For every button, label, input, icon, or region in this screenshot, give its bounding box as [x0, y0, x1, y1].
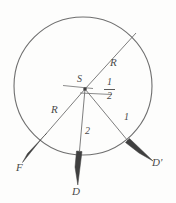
vector-f-arrow	[23, 134, 47, 163]
label-vector-d: D	[72, 186, 80, 197]
label-radius-upper-right: R	[110, 57, 117, 68]
tick-left-line	[63, 86, 93, 89]
label-vector-d-prime: D'	[152, 157, 162, 168]
label-radius-lower-left: R	[51, 104, 58, 115]
label-distance-two: 2	[85, 126, 90, 136]
half-numerator: 1	[104, 77, 115, 88]
geometry-figure: S R R 1 2 2 1 F D D'	[0, 0, 176, 203]
figure-canvas	[0, 0, 176, 203]
label-center-s: S	[77, 74, 82, 84]
label-half-fraction: 1 2	[104, 77, 115, 101]
half-denominator: 2	[104, 91, 115, 102]
center-point-dot	[83, 87, 87, 91]
vector-d-prime-arrow	[126, 139, 154, 162]
label-vector-f: F	[16, 162, 23, 173]
vector-d-arrow	[75, 151, 82, 185]
label-distance-one: 1	[124, 112, 129, 122]
segment-two-line	[80, 89, 86, 151]
